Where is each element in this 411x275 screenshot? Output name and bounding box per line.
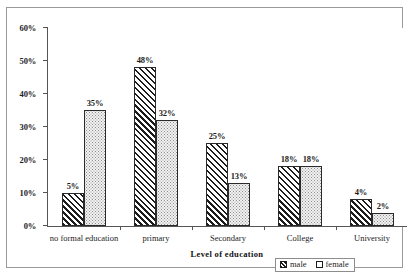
bar-value-label: 5%: [67, 181, 79, 191]
bar-value-label: 13%: [231, 171, 247, 181]
x-axis-separator: [336, 226, 337, 230]
bar-male[interactable]: 25%: [206, 143, 228, 226]
x-axis-category-label: primary: [143, 233, 170, 243]
bar-male[interactable]: 18%: [278, 166, 300, 226]
y-axis-tick-label: 10%: [20, 188, 36, 198]
bar-female[interactable]: 18%: [300, 166, 322, 226]
y-axis-tick-label: 0%: [24, 221, 36, 231]
bar-female[interactable]: 35%: [84, 110, 106, 226]
x-axis-separator: [192, 226, 193, 230]
bar-value-label: 25%: [209, 131, 225, 141]
bar-group: 5% 35% no formal education: [48, 27, 120, 226]
y-axis-tick-label: 40%: [20, 89, 36, 99]
bar-value-label: 2%: [377, 201, 389, 211]
bar-value-label: 35%: [87, 98, 103, 108]
x-axis-separator: [120, 226, 121, 230]
legend-item-female[interactable]: female: [316, 260, 349, 269]
bar-value-label: 48%: [137, 55, 153, 65]
x-axis-category-label: no formal education: [50, 233, 118, 243]
bar-value-label: 32%: [159, 108, 175, 118]
y-axis-tick-label: 60%: [20, 23, 36, 33]
x-axis-category-label: College: [287, 233, 313, 243]
legend-item-male[interactable]: male: [280, 260, 307, 269]
chart-frame: 0% 10% 20% 30% 40% 50% 60% 5%: [6, 7, 403, 268]
legend-label-male: male: [290, 260, 307, 269]
bar-value-label: 18%: [303, 154, 319, 164]
y-axis-tick-label: 20%: [20, 155, 36, 165]
chart-legend[interactable]: male female: [275, 258, 355, 272]
bar-female[interactable]: 13%: [228, 183, 250, 226]
bar-male[interactable]: 48%: [134, 67, 156, 226]
y-axis-tick-label: 30%: [20, 122, 36, 132]
bar-group: 25% 13% Secondary: [192, 27, 264, 226]
plot-area: 0% 10% 20% 30% 40% 50% 60% 5%: [47, 28, 407, 227]
bar-value-label: 18%: [281, 154, 297, 164]
x-axis-category-label: University: [354, 233, 390, 243]
hatched-square-icon: [280, 261, 287, 268]
bar-female[interactable]: 32%: [156, 120, 178, 226]
x-axis-separator: [264, 226, 265, 230]
legend-label-female: female: [326, 260, 349, 269]
bar-value-label: 4%: [355, 187, 367, 197]
empty-square-icon: [316, 261, 323, 268]
bar-group: 4% 2% University: [336, 27, 408, 226]
bar-female[interactable]: 2%: [372, 213, 394, 226]
bar-group: 18% 18% College: [264, 27, 336, 226]
bar-male[interactable]: 4%: [350, 199, 372, 226]
x-axis-category-label: Secondary: [210, 233, 246, 243]
bar-male[interactable]: 5%: [62, 193, 84, 226]
bar-group: 48% 32% primary: [120, 27, 192, 226]
y-axis-tick-label: 50%: [20, 56, 36, 66]
